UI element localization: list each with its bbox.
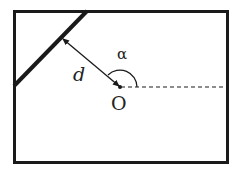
origin-point	[118, 85, 122, 89]
distance-label: d	[73, 63, 85, 85]
distance-arrow	[63, 39, 119, 86]
origin-label: O	[111, 92, 127, 114]
angle-label: α	[117, 45, 127, 63]
angle-arc	[108, 70, 137, 87]
diagram-canvas: d α O	[0, 0, 238, 173]
